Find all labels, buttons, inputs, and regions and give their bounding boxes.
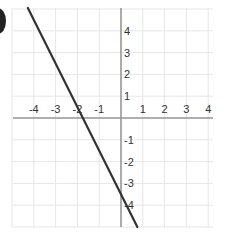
y-tick-label: 2 bbox=[124, 68, 130, 80]
y-tick-label: 4 bbox=[124, 25, 130, 37]
axes bbox=[13, 8, 213, 227]
x-tick-label: 1 bbox=[140, 103, 146, 115]
x-tick-label: 4 bbox=[205, 103, 211, 115]
line-graph: -4-3-2-112344321-1-2-3-4 bbox=[0, 0, 235, 239]
y-tick-label: -1 bbox=[124, 134, 134, 146]
x-tick-label: -4 bbox=[29, 103, 39, 115]
x-tick-label: 2 bbox=[162, 103, 168, 115]
y-tick-label: -2 bbox=[124, 156, 134, 168]
y-tick-label: -3 bbox=[124, 177, 134, 189]
x-tick-label: -3 bbox=[51, 103, 61, 115]
y-tick-label: 1 bbox=[124, 90, 130, 102]
x-tick-label: 3 bbox=[183, 103, 189, 115]
y-tick-label: 3 bbox=[124, 47, 130, 59]
x-tick-label: -1 bbox=[94, 103, 104, 115]
